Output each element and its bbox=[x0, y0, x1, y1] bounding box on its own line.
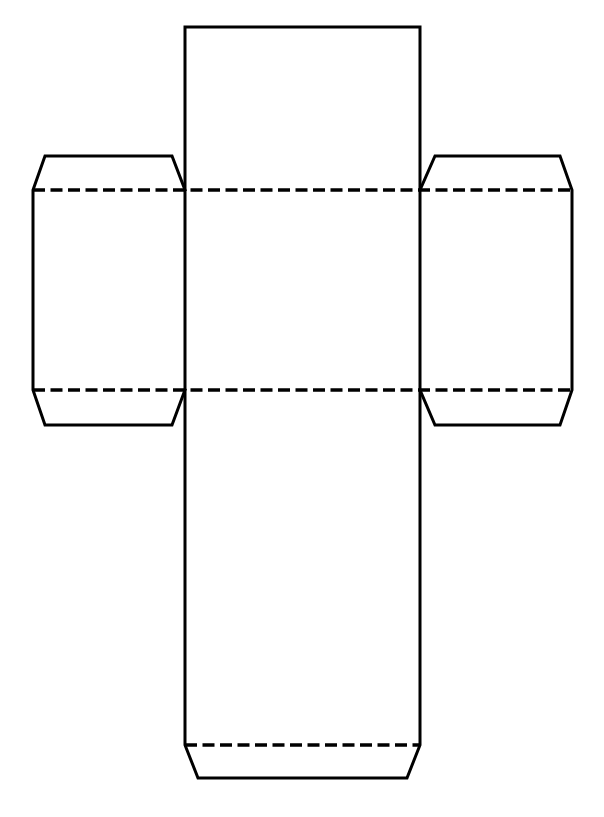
panel-face-left-side bbox=[33, 190, 185, 390]
panel-face-top bbox=[185, 27, 420, 190]
panel-face-center bbox=[185, 190, 420, 390]
box-net-diagram bbox=[0, 0, 604, 817]
panel-face-right-side bbox=[420, 190, 572, 390]
panel-face-bottom-glue-flap bbox=[185, 745, 420, 778]
panel-face-bottom bbox=[185, 390, 420, 745]
net-canvas bbox=[0, 0, 604, 817]
panel-face-right-top-flap bbox=[420, 156, 572, 190]
panel-face-left-top-flap bbox=[33, 156, 185, 190]
panel-face-right-bottom-flap bbox=[420, 390, 572, 425]
panel-face-left-bottom-flap bbox=[33, 390, 185, 425]
